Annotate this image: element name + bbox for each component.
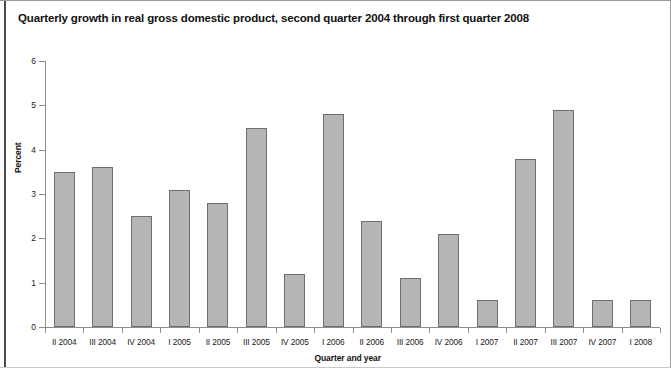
x-axis-tick (83, 328, 84, 333)
bar (553, 110, 574, 327)
plot-area: Percent 0123456 II 2004III 2004IV 2004I … (0, 1, 671, 368)
y-axis-tick (39, 61, 45, 62)
x-axis-tick-label: III 2004 (83, 337, 121, 347)
x-axis-tick (545, 328, 546, 333)
x-axis-tick-label: III 2007 (545, 337, 583, 347)
bar (400, 278, 421, 327)
x-axis-tick-label: IV 2004 (122, 337, 160, 347)
x-axis-tick (583, 328, 584, 333)
y-axis-tick-label: 1 (22, 278, 36, 288)
bar (92, 167, 113, 327)
x-axis-tick (199, 328, 200, 333)
x-axis-tick-label: II 2007 (506, 337, 544, 347)
bar (131, 216, 152, 327)
x-axis-tick (237, 328, 238, 333)
y-axis-tick (39, 105, 45, 106)
bar (284, 274, 305, 327)
bar (438, 234, 459, 327)
y-axis-tick (39, 238, 45, 239)
y-axis-tick (39, 194, 45, 195)
x-axis-tick (506, 328, 507, 333)
x-axis-tick (429, 328, 430, 333)
y-axis-line (45, 61, 46, 327)
bar (477, 300, 498, 327)
y-axis-tick (39, 150, 45, 151)
x-axis-tick (276, 328, 277, 333)
y-axis-tick (39, 283, 45, 284)
x-axis-tick-label: II 2005 (199, 337, 237, 347)
bar (54, 172, 75, 327)
x-axis-tick (122, 328, 123, 333)
bar (361, 221, 382, 327)
x-axis-tick (468, 328, 469, 333)
x-axis-tick-label: I 2007 (468, 337, 506, 347)
bar (246, 128, 267, 328)
x-axis-tick-label: II 2004 (45, 337, 83, 347)
bar (207, 203, 228, 327)
y-axis-tick-label: 6 (22, 56, 36, 66)
x-axis-tick-label: IV 2007 (583, 337, 621, 347)
x-axis-tick-label: IV 2006 (429, 337, 467, 347)
x-axis-tick-label: III 2006 (391, 337, 429, 347)
x-axis-title: Quarter and year (315, 353, 381, 363)
y-axis-tick-label: 4 (22, 145, 36, 155)
y-axis-tick-label: 3 (22, 189, 36, 199)
x-axis-tick (45, 328, 46, 333)
bar (515, 159, 536, 327)
bar (592, 300, 613, 327)
x-axis-tick (353, 328, 354, 333)
x-axis-tick-label: II 2006 (353, 337, 391, 347)
x-axis-tick-label: III 2005 (237, 337, 275, 347)
y-axis-tick-label: 5 (22, 100, 36, 110)
x-axis-tick-label: I 2008 (622, 337, 660, 347)
x-axis-tick (391, 328, 392, 333)
chart-page: Quarterly growth in real gross domestic … (0, 0, 671, 368)
bar (630, 300, 651, 327)
x-axis-tick-label: I 2005 (160, 337, 198, 347)
y-axis-tick-label: 2 (22, 233, 36, 243)
x-axis-tick (160, 328, 161, 333)
x-axis-tick (660, 328, 661, 333)
bar (323, 114, 344, 327)
x-axis-tick (622, 328, 623, 333)
x-axis-tick-label: IV 2005 (276, 337, 314, 347)
x-axis-tick (314, 328, 315, 333)
x-axis-tick-label: I 2006 (314, 337, 352, 347)
bar (169, 190, 190, 327)
y-axis-tick-label: 0 (22, 322, 36, 332)
